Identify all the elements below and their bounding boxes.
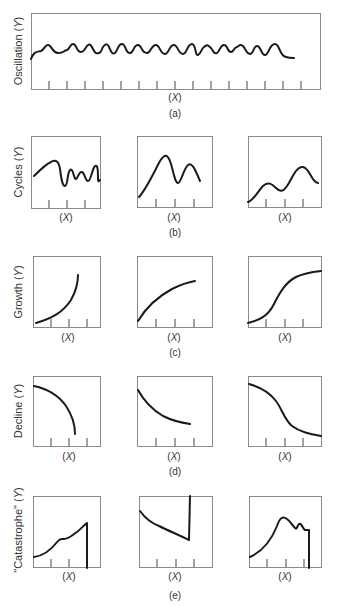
chart-catastrophe-3	[249, 496, 322, 568]
x-axis-label-cycles-3: (X)	[278, 212, 291, 223]
chart-cycles-3	[248, 136, 322, 208]
decline-plot-2	[137, 376, 213, 447]
x-axis-label-growth-3: (X)	[278, 332, 291, 343]
x-axis-label-cycles-1: (X)	[59, 212, 72, 223]
caption-b: (b)	[169, 227, 181, 238]
y-axis-label-growth: Growth (Y)	[12, 265, 24, 318]
x-axis-label-decline-2: (X)	[167, 451, 180, 462]
growth-plot-3	[248, 256, 322, 328]
x-axis-label-decline-3: (X)	[278, 451, 291, 462]
chart-cycles-1	[31, 136, 101, 209]
caption-e: (e)	[169, 590, 181, 601]
y-axis-label-oscillation: Oscillation (Y)	[12, 17, 24, 85]
chart-oscillation	[31, 13, 321, 90]
x-axis-label-oscillation: (X)	[168, 92, 181, 103]
y-axis-label-decline: Decline (Y)	[12, 384, 24, 438]
chart-decline-1	[33, 376, 101, 447]
caption-a: (a)	[169, 108, 181, 119]
x-axis-label-catastrophe-2: (X)	[168, 571, 181, 582]
x-axis-label-growth-2: (X)	[167, 332, 180, 343]
cycles-plot-1	[31, 136, 101, 209]
oscillation-plot	[31, 13, 321, 90]
y-axis-label-catastrophe: "Catastrophe" (Y)	[12, 487, 24, 572]
caption-c: (c)	[169, 347, 181, 358]
catastrophe-plot-1	[33, 496, 101, 568]
chart-catastrophe-2	[139, 496, 213, 568]
chart-growth-3	[248, 256, 322, 328]
chart-cycles-2	[137, 136, 213, 208]
chart-decline-2	[137, 376, 213, 447]
chart-decline-3	[248, 376, 322, 447]
chart-growth-1	[33, 256, 101, 328]
cycles-plot-3	[248, 136, 322, 208]
decline-plot-1	[33, 376, 101, 447]
decline-plot-3	[248, 376, 322, 447]
x-axis-label-decline-1: (X)	[62, 451, 75, 462]
caption-d: (d)	[169, 466, 181, 477]
x-axis-label-growth-1: (X)	[61, 332, 74, 343]
x-axis-label-catastrophe-3: (X)	[278, 571, 291, 582]
x-axis-label-catastrophe-1: (X)	[62, 571, 75, 582]
cycles-plot-2	[137, 136, 213, 208]
chart-growth-2	[137, 256, 213, 328]
chart-catastrophe-1	[33, 496, 101, 568]
catastrophe-plot-3	[249, 496, 322, 568]
growth-plot-1	[33, 256, 101, 328]
catastrophe-plot-2	[139, 496, 213, 568]
x-axis-label-cycles-2: (X)	[167, 212, 180, 223]
growth-plot-2	[137, 256, 213, 328]
y-axis-label-cycles: Cycles (Y)	[12, 147, 24, 198]
